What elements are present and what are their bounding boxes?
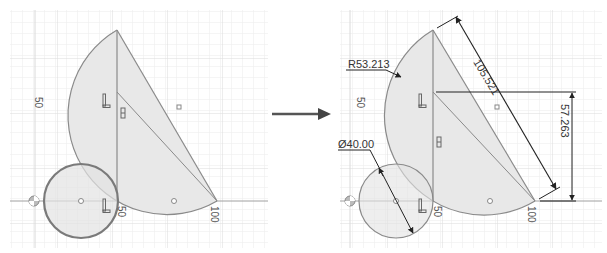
right-sketch-panel: 50 50 100 R53.213 Ø40.00 105.521: [338, 10, 602, 248]
circle-center-point[interactable]: [79, 199, 84, 204]
midpoint-marker[interactable]: [495, 105, 499, 109]
arc-center-point[interactable]: [172, 199, 177, 204]
origin-icon[interactable]: [29, 196, 39, 206]
y-axis-label-50: 50: [355, 97, 366, 109]
y-axis-label-50: 50: [33, 97, 44, 109]
left-sketch-panel: 50 50 100: [10, 10, 268, 248]
arc-center-point[interactable]: [488, 199, 493, 204]
x-axis-label-50: 50: [116, 206, 127, 218]
x-axis-label-100: 100: [209, 206, 220, 223]
diameter-dimension-text[interactable]: Ø40.00: [338, 138, 374, 150]
transition-arrow-icon: [272, 108, 331, 120]
radius-dimension-text[interactable]: R53.213: [348, 58, 390, 70]
vertical-dimension-text[interactable]: 57.263: [559, 104, 571, 138]
sketch-canvas[interactable]: 50 50 100: [0, 0, 607, 253]
x-axis-label-50: 50: [432, 206, 443, 218]
origin-icon[interactable]: [345, 196, 355, 206]
x-axis-label-100: 100: [526, 206, 537, 223]
midpoint-marker[interactable]: [177, 105, 181, 109]
